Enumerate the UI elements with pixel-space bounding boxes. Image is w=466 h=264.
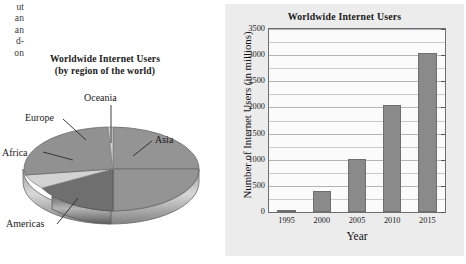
cut-off-text-line: d- — [0, 36, 24, 47]
y-axis-tick-label: 0 — [261, 208, 265, 216]
bar-chart-x-axis-label: Year — [268, 230, 446, 242]
cut-off-text-line: ut — [0, 2, 24, 13]
y-axis-tick — [441, 186, 445, 187]
pie-label-americas: Americas — [6, 218, 44, 229]
y-axis-tick-label: 500 — [253, 182, 265, 190]
pie-label-oceania: Oceania — [84, 92, 117, 103]
pie-slice-asia-lower — [113, 169, 199, 211]
y-axis-tick — [441, 55, 445, 56]
pie-chart-svg — [0, 48, 222, 264]
bar-2000 — [313, 191, 331, 212]
bar-chart-title: Worldwide Internet Users — [225, 11, 464, 22]
x-axis-tick-label: 2005 — [349, 216, 366, 225]
y-axis-tick — [441, 134, 445, 135]
gridline — [269, 29, 445, 30]
cut-off-text-line: an — [0, 13, 24, 24]
bar-chart-plot-area: 0500100015002000250030003500199520002005… — [268, 28, 446, 213]
y-axis-tick — [441, 81, 445, 82]
bar-2010 — [383, 105, 401, 212]
bar-2005 — [348, 159, 366, 212]
y-axis-tick — [441, 107, 445, 108]
pie-label-africa: Africa — [2, 147, 28, 158]
pie-label-europe: Europe — [25, 112, 54, 123]
bar-1995 — [277, 210, 295, 212]
bar-chart-y-axis-label: Number of Internet Users (in millions) — [241, 30, 253, 200]
y-axis-tick — [441, 160, 445, 161]
bar-chart-figure: Worldwide Internet Users 050010001500200… — [225, 4, 464, 256]
pie-slice-europe — [24, 127, 113, 175]
y-axis-tick — [441, 212, 445, 213]
pie-chart-figure: Worldwide Internet Users (by region of t… — [0, 48, 222, 264]
cut-off-text-line: an — [0, 25, 24, 36]
bar-2015 — [418, 53, 436, 212]
x-axis-tick-label: 1995 — [278, 216, 295, 225]
gridline — [269, 42, 445, 43]
pie-label-asia: Asia — [155, 134, 173, 145]
x-axis-tick-label: 2015 — [419, 216, 436, 225]
x-axis-tick-label: 2000 — [314, 216, 331, 225]
pie-chart-graphic — [0, 48, 222, 264]
x-axis-tick-label: 2010 — [384, 216, 401, 225]
y-axis-tick — [441, 29, 445, 30]
